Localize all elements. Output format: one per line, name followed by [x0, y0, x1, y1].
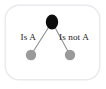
node-child-left	[26, 50, 36, 60]
edge-label-is-not-a: Is not A	[59, 32, 89, 42]
diagram-canvas: Is A Is not A	[0, 0, 106, 89]
node-child-right	[65, 50, 75, 60]
node-root-concept	[46, 15, 58, 30]
taxonomy-branch-diagram: Is A Is not A	[0, 0, 106, 89]
edge-label-is-a: Is A	[21, 32, 37, 42]
